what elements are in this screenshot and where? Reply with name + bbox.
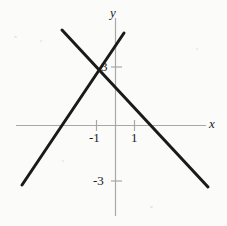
scan-speck [62,160,64,162]
y-axis-label: y [110,6,116,19]
x-axis-label: x [209,117,215,130]
scan-speck [40,40,42,42]
y-tick-label-3: 3 [101,60,108,73]
rising-line [22,33,124,185]
falling-line [62,30,208,187]
scan-speck [14,36,17,38]
y-tick-label-minus-3: -3 [93,174,104,187]
x-tick-label-minus-1: -1 [89,131,100,144]
scan-speck [150,206,153,208]
scan-speck [196,48,198,50]
graph-figure: y x 3 -3 -1 1 [0,0,227,226]
x-tick-label-1: 1 [131,131,138,144]
coordinate-plot [0,0,227,226]
